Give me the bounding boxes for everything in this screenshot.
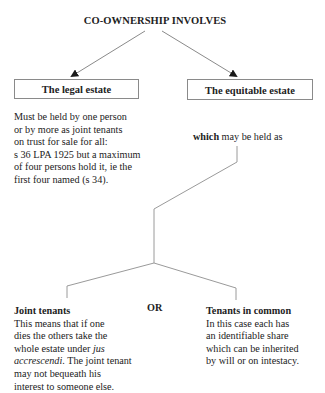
jt-text: whole estate under (14, 343, 93, 354)
equitable-estate-note: which may be held as (193, 131, 282, 142)
jt-line: may not bequeath his (14, 368, 174, 381)
jt-line: This means that if one (14, 318, 174, 331)
tc-line: In this case each has (206, 318, 325, 331)
jt-line: whole estate under jus (14, 343, 174, 356)
legal-desc-line: Must be held by one person (14, 111, 184, 124)
jt-line: accrescendi. The joint tenant (14, 355, 174, 368)
jt-latin: jus (93, 343, 105, 354)
jt-line: interest to someone else. (14, 381, 174, 393)
joint-tenants-heading: Joint tenants (14, 305, 174, 318)
equitable-estate-box: The equitable estate (187, 79, 313, 100)
jt-line: dies the others take the (14, 330, 174, 343)
tc-line: an identifiable share (206, 330, 325, 343)
legal-estate-description: Must be held by one person or by more as… (14, 111, 184, 187)
jt-latin: accrescendi (14, 355, 62, 366)
which-keyword: which (193, 131, 219, 142)
arrow-to-equitable-estate (162, 31, 236, 76)
tc-line: which can be inherited (206, 343, 325, 356)
diagram-title: CO-OWNERSHIP INVOLVES (0, 15, 310, 26)
tc-line: by will or on intestacy. (206, 355, 325, 368)
legal-desc-line: of four persons hold it, ie the (14, 161, 184, 174)
joint-tenants-block: Joint tenants This means that if one die… (14, 305, 174, 393)
arrow-to-legal-estate (72, 31, 145, 76)
legal-desc-line: or by more as joint tenants (14, 124, 184, 137)
which-rest: may be held as (219, 131, 282, 142)
legal-desc-line: first four named (s 34). (14, 174, 184, 187)
tenants-in-common-heading: Tenants in common (206, 305, 325, 318)
legal-estate-box: The legal estate (14, 79, 139, 99)
legal-desc-line: on trust for sale for all: (14, 136, 184, 149)
jt-text: . The joint tenant (62, 355, 131, 366)
legal-desc-line: s 36 LPA 1925 but a maximum (14, 149, 184, 162)
tenants-in-common-block: Tenants in common In this case each has … (206, 305, 325, 368)
tenants-in-common-branch-line (154, 263, 236, 300)
joint-tenants-branch-line (67, 263, 154, 298)
